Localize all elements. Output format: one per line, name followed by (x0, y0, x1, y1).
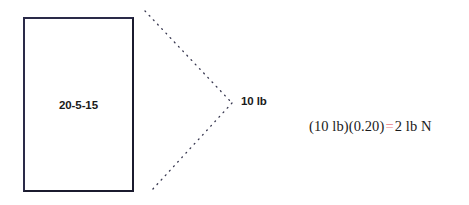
chevron-lower-line (152, 103, 232, 190)
figure-canvas: 20-5-15 10 lb (10 lb)(0.20)=2 lb N (0, 0, 469, 205)
equation-lhs: (10 lb)(0.20) (309, 118, 384, 134)
equation-operator: = (384, 118, 394, 134)
equation-rhs: 2 lb N (395, 118, 432, 134)
equation: (10 lb)(0.20)=2 lb N (309, 118, 432, 135)
block-label: 20-5-15 (23, 17, 134, 192)
force-label: 10 lb (241, 95, 267, 107)
chevron-upper-line (145, 11, 232, 103)
